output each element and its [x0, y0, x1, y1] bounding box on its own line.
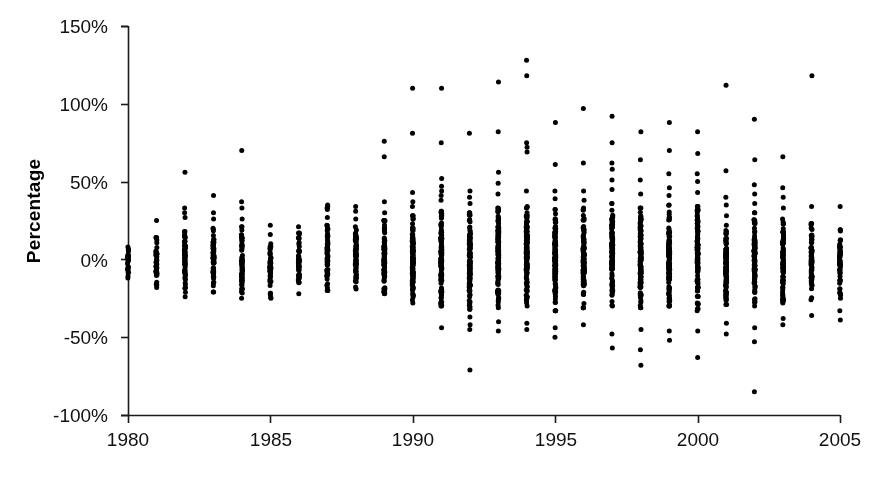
x-tick-label-2000: 2000	[653, 429, 743, 451]
x-tick-label-1980: 1980	[83, 429, 173, 451]
x-tick-label-2005: 2005	[795, 429, 885, 451]
y-tick-label-50: 50%	[22, 172, 108, 194]
x-tick-label-1990: 1990	[368, 429, 458, 451]
y-tick-label-100: 100%	[22, 94, 108, 116]
x-tick-label-1995: 1995	[511, 429, 601, 451]
y-tick-label-neg50: -50%	[22, 327, 108, 349]
x-tick-label-1985: 1985	[226, 429, 316, 451]
scatter-plot-figure: Percentage 150% 100% 50% 0% -50% -100% 1…	[0, 0, 889, 481]
y-tick-label-0: 0%	[22, 250, 108, 272]
y-tick-label-150: 150%	[22, 16, 108, 38]
scatter-plot-canvas	[0, 0, 889, 481]
y-tick-label-neg100: -100%	[22, 405, 108, 427]
